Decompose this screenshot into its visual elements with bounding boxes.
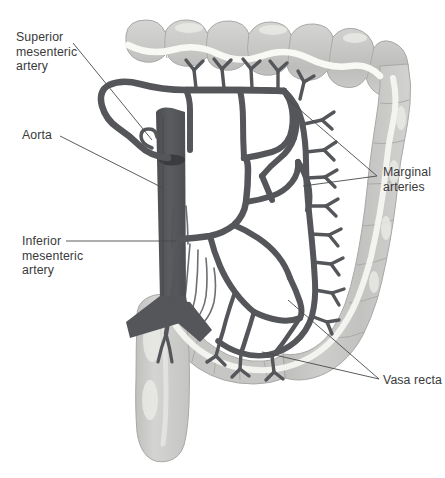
left-colic-ascending-branch bbox=[244, 91, 293, 158]
mesenteric-arcade-7 bbox=[290, 278, 302, 318]
leader-line-aorta bbox=[60, 136, 163, 188]
mesenteric-arcade-4 bbox=[234, 225, 290, 278]
mesenteric-arcade-2 bbox=[262, 138, 294, 176]
marginal-artery-transverse bbox=[186, 90, 284, 91]
aorta bbox=[156, 108, 186, 301]
sigmoid-artery-3 bbox=[220, 292, 235, 341]
transverse-arcade-upper bbox=[240, 90, 244, 158]
sigmoid-artery-2 bbox=[241, 312, 254, 353]
label-aorta: Aorta bbox=[22, 128, 52, 143]
label-vasa-recta: Vasa recta bbox=[383, 373, 442, 388]
anatomical-figure: Superior mesenteric artery Aorta Inferio… bbox=[0, 0, 445, 478]
label-marginal-arteries: Marginal arteries bbox=[383, 165, 431, 194]
middle-colic-artery bbox=[186, 90, 190, 150]
mesenteric-arcade-6 bbox=[254, 312, 300, 321]
label-superior-mesenteric-artery: Superior mesenteric artery bbox=[16, 30, 77, 74]
label-inferior-mesenteric-artery: Inferior mesenteric artery bbox=[22, 234, 83, 278]
